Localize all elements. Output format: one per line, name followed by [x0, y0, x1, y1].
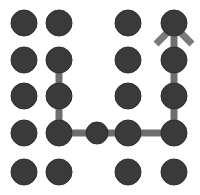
dot-r3c3[interactable]: [115, 83, 141, 109]
dot-r4c2[interactable]: [46, 120, 72, 146]
dot-r2c1[interactable]: [11, 47, 37, 73]
dot-r4c3[interactable]: [115, 120, 141, 146]
dot-r2c3[interactable]: [115, 47, 141, 73]
waypoint-mid-row4[interactable]: [86, 122, 108, 144]
pattern-lock-stage[interactable]: Pattern Lock Grid 5 x 4 dot grid U-shape…: [0, 0, 200, 195]
dot-r5c1[interactable]: [11, 159, 37, 185]
dot-r3c1[interactable]: [11, 83, 37, 109]
dot-r5c2[interactable]: [46, 159, 72, 185]
dot-r1c4[interactable]: [161, 10, 187, 36]
pattern-lock-canvas[interactable]: [0, 0, 200, 195]
dot-r5c4[interactable]: [161, 159, 187, 185]
dot-r2c2[interactable]: [46, 47, 72, 73]
dot-r1c2[interactable]: [46, 10, 72, 36]
dot-r1c1[interactable]: [11, 10, 37, 36]
dot-r5c3[interactable]: [115, 159, 141, 185]
dot-r3c4[interactable]: [161, 83, 187, 109]
dot-r2c4[interactable]: [161, 47, 187, 73]
dot-r4c4[interactable]: [161, 120, 187, 146]
dot-r3c2[interactable]: [46, 83, 72, 109]
dot-r4c1[interactable]: [11, 120, 37, 146]
dot-r1c3[interactable]: [115, 10, 141, 36]
